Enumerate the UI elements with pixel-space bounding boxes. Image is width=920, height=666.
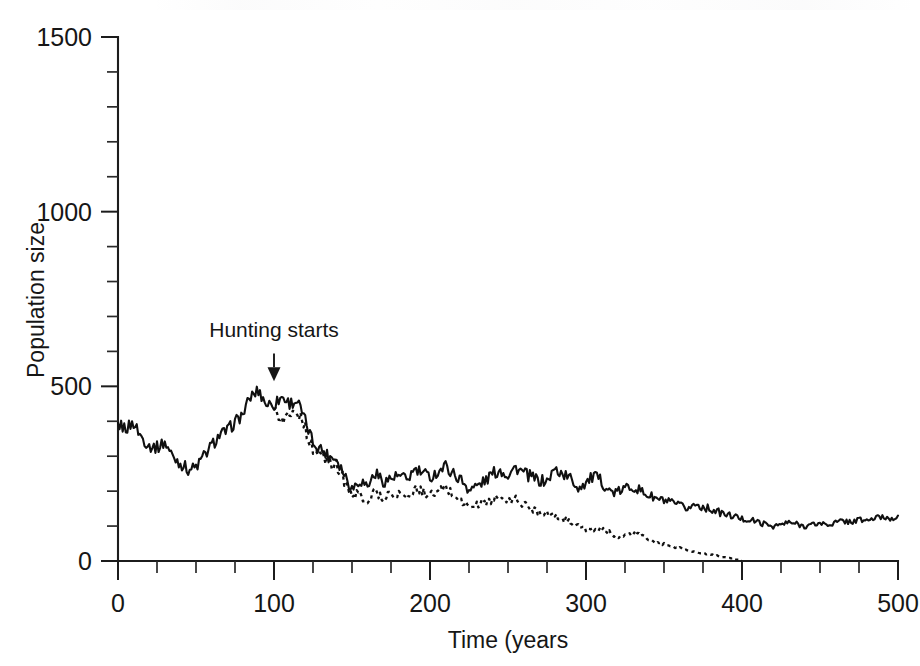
y-tick-label: 500 [50,372,92,400]
series-line-with-hunting [274,408,742,561]
y-axis: 050010001500 Population size [23,23,118,575]
y-axis-title: Population size [23,222,49,378]
x-tick-label: 300 [565,589,607,617]
series-line-no-hunting [118,387,898,529]
data-series-group [118,387,898,561]
y-tick-label: 1500 [36,23,92,51]
x-tick-label: 200 [409,589,451,617]
x-tick-label: 0 [111,589,125,617]
annotation-label-hunting-starts: Hunting starts [209,318,339,341]
x-axis-tick-labels: 0100200300400500 [111,589,919,617]
y-tick-label: 1000 [36,198,92,226]
hunting-starts-annotation: Hunting starts [209,318,339,381]
x-axis-ticks [118,561,898,580]
x-tick-label: 100 [253,589,295,617]
annotation-arrow-head [268,367,281,381]
y-axis-ticks [101,37,118,561]
x-axis-title: Time (years [448,627,569,653]
population-size-line-chart: 050010001500 Population size 01002003004… [0,0,920,666]
x-tick-label: 400 [721,589,763,617]
x-tick-label: 500 [877,589,919,617]
y-tick-label: 0 [78,547,92,575]
figure-container: 050010001500 Population size 01002003004… [0,0,920,666]
x-axis: 0100200300400500 Time (years [111,561,919,653]
